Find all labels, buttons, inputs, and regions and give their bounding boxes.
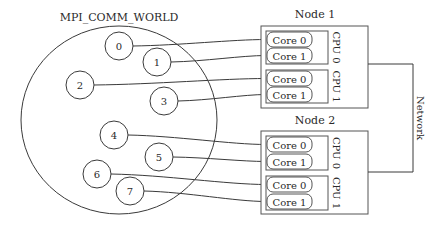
core-label: Core 1 [273, 197, 307, 208]
connection-arrow [144, 191, 266, 202]
process-rank-label: 3 [161, 96, 167, 107]
mpi-diagram: MPI_COMM_WORLD 01234567 Node 1 Core 0 Co… [0, 0, 439, 227]
connection-arrow [173, 157, 266, 162]
connection-arrow [128, 135, 266, 145]
node-1: Node 1 Core 0 Core 1 CPU 0 Core 0 Core 1… [261, 8, 368, 108]
core-label: Core 0 [273, 140, 307, 151]
process-node: 2 [66, 71, 94, 99]
network-link: Network [368, 64, 426, 172]
process-rank-label: 2 [77, 80, 83, 91]
node-label: Node 2 [295, 114, 335, 127]
network-label: Network [415, 96, 426, 141]
process-rank-label: 5 [156, 152, 162, 163]
process-rank-label: 1 [154, 57, 160, 68]
process-rank-label: 6 [94, 169, 100, 180]
communicator-label: MPI_COMM_WORLD [60, 11, 179, 24]
node-label: Node 1 [295, 8, 335, 21]
process-node: 0 [105, 32, 133, 60]
process-node: 6 [83, 160, 111, 188]
process-rank-label: 7 [127, 186, 133, 197]
core-label: Core 1 [273, 157, 307, 168]
cpu-label: CPU 0 [331, 137, 342, 169]
process-core-connections [94, 40, 266, 202]
process-node: 5 [145, 143, 173, 171]
process-rank-label: 0 [116, 41, 122, 52]
cpu-label: CPU 1 [331, 70, 342, 102]
process-node: 1 [143, 48, 171, 76]
node-2: Node 2 Core 0 Core 1 CPU 0 Core 0 Core 1… [261, 114, 368, 214]
connection-arrow [171, 56, 266, 63]
core-label: Core 0 [273, 180, 307, 191]
connection-arrow [178, 95, 266, 102]
process-node: 4 [100, 121, 128, 149]
process-node: 3 [150, 87, 178, 115]
core-label: Core 1 [273, 90, 307, 101]
core-label: Core 1 [273, 51, 307, 62]
core-label: Core 0 [273, 74, 307, 85]
process-node: 7 [116, 177, 144, 205]
process-group: 01234567 [66, 32, 178, 205]
cpu-label: CPU 0 [331, 31, 342, 63]
core-label: Core 0 [273, 35, 307, 46]
connection-arrow [94, 79, 266, 86]
cpu-label: CPU 1 [331, 177, 342, 209]
process-rank-label: 4 [111, 130, 117, 141]
connection-arrow [133, 40, 266, 47]
network-line [368, 64, 413, 172]
